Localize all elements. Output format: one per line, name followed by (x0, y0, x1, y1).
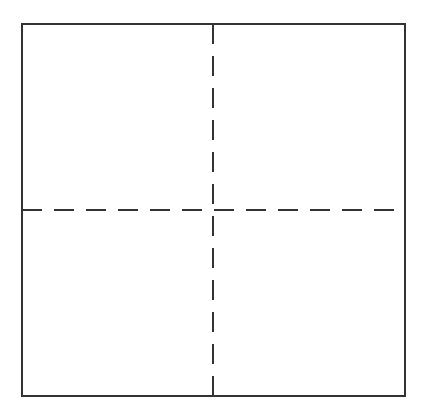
diagram-canvas (0, 0, 439, 418)
quadrant-diagram (0, 0, 439, 418)
